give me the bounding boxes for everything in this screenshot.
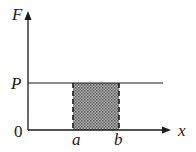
force-level-label: P	[10, 74, 21, 93]
interval-end-label: b	[114, 130, 123, 149]
y-axis-label: F	[11, 5, 23, 24]
interval-start-label: a	[72, 130, 81, 149]
x-axis-arrow-icon	[162, 127, 171, 134]
force-displacement-diagram: F P 0 a b x	[0, 0, 196, 152]
x-axis-label: x	[177, 121, 186, 140]
y-axis-arrow-icon	[25, 11, 32, 20]
origin-label: 0	[14, 122, 23, 141]
shaded-work-area	[73, 83, 119, 130]
